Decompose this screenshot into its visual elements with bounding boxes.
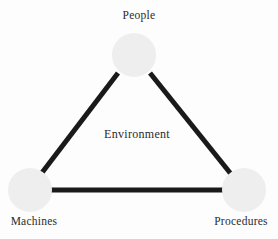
node-group (8, 33, 266, 212)
node-people-circle[interactable] (112, 33, 156, 77)
center-label-environment: Environment (0, 127, 274, 141)
node-label-machines: Machines (0, 215, 68, 228)
node-label-procedures: Procedures (204, 215, 278, 228)
edge-people-procedures (150, 73, 231, 174)
diagram-canvas: People Machines Procedures Environment (0, 0, 278, 239)
diagram-graphics (0, 0, 278, 239)
node-label-people: People (0, 9, 278, 22)
edge-people-machines (41, 73, 118, 174)
node-procedures-circle[interactable] (222, 168, 266, 212)
node-machines-circle[interactable] (8, 168, 52, 212)
